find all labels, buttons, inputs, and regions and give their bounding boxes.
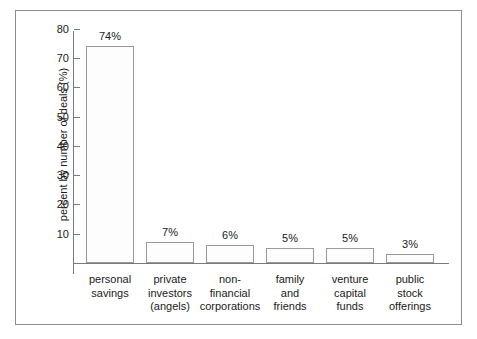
bar-4 — [326, 248, 374, 263]
y-axis-line — [73, 31, 74, 274]
bar-2 — [206, 245, 254, 263]
bar-1 — [146, 242, 194, 263]
bar-3 — [266, 248, 314, 263]
x-category-line: public — [367, 273, 453, 287]
figure-frame: percent by number of deals (%) 102030405… — [15, 10, 462, 325]
y-tick-50 — [74, 117, 80, 118]
bar-value-label-0: 74% — [80, 31, 140, 42]
y-tick-10 — [74, 234, 80, 235]
y-tick-label-50: 50 — [29, 112, 69, 123]
y-tick-30 — [74, 175, 80, 176]
bar-value-label-4: 5% — [320, 233, 380, 244]
y-tick-label-40: 40 — [29, 141, 69, 152]
y-tick-label-30: 30 — [29, 170, 69, 181]
y-tick-label-70: 70 — [29, 53, 69, 64]
bar-5 — [386, 254, 434, 263]
y-tick-70 — [74, 58, 80, 59]
x-category-line: offerings — [367, 300, 453, 314]
x-category-line: stock — [367, 287, 453, 301]
y-tick-label-60: 60 — [29, 82, 69, 93]
x-axis-baseline — [73, 263, 449, 264]
bar-0 — [86, 46, 134, 263]
y-tick-80 — [74, 29, 80, 30]
bar-value-label-2: 6% — [200, 230, 260, 241]
y-tick-40 — [74, 146, 80, 147]
y-tick-label-80: 80 — [29, 24, 69, 35]
y-tick-label-20: 20 — [29, 199, 69, 210]
y-tick-60 — [74, 87, 80, 88]
x-category-label-5: publicstockofferings — [367, 273, 453, 314]
y-tick-label-10: 10 — [29, 229, 69, 240]
y-tick-20 — [74, 204, 80, 205]
bar-value-label-5: 3% — [380, 239, 440, 250]
bar-value-label-3: 5% — [260, 233, 320, 244]
bar-value-label-1: 7% — [140, 227, 200, 238]
bar-chart-plot-area: percent by number of deals (%) 102030405… — [16, 11, 463, 326]
